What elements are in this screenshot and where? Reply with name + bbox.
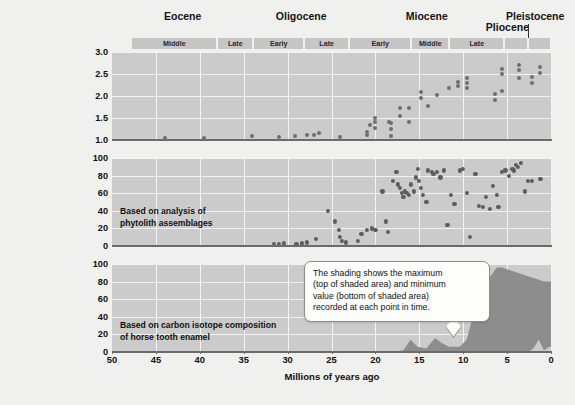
data-point [493,92,497,96]
data-point [368,123,372,127]
data-point [391,179,395,183]
data-point [480,205,484,209]
data-point [426,104,430,108]
x-tick-35: 35 [238,354,248,365]
data-point [343,240,347,244]
sub-epoch-unlabeled-7 [505,38,527,49]
data-point [401,195,405,199]
gridline-vertical [244,158,245,246]
sub-epoch-late-1: Late [218,38,252,49]
gridline-vertical [288,52,289,140]
x-tick-20: 20 [370,354,380,365]
data-point [493,98,497,102]
x-tick-mark [419,351,420,354]
y-tick-open-habitat-grasses-20: 20 [98,223,108,233]
epoch-label-pleistocene: Pleistocene [496,10,574,22]
y-tick-c4-diet-80: 80 [98,277,108,287]
data-point [389,134,393,138]
gridline-vertical [507,52,508,140]
data-point [408,182,412,186]
data-point [305,133,309,137]
data-point [365,130,369,134]
y-tick-open-habitat-grasses-100: 100 [93,153,108,163]
data-point [465,191,469,195]
data-point [449,193,453,197]
data-point [424,200,428,204]
gridline-vertical [507,158,508,246]
data-point [465,86,469,90]
pleistocene-pointer-tick [528,24,529,38]
y-tick-c4-diet-100: 100 [93,259,108,269]
y-tick-open-habitat-grasses-0: 0 [103,241,108,251]
data-point [373,116,377,120]
data-point [507,174,511,178]
gridline-vertical [288,158,289,246]
data-point [465,81,469,85]
y-tick-open-habitat-grasses-40: 40 [98,206,108,216]
data-point [365,228,369,232]
data-point [312,133,316,137]
data-point [530,179,534,183]
y-tick-hypsodonty-1.5: 1.5 [95,113,108,123]
data-point [407,193,411,197]
sub-epoch-middle-0: Middle [132,38,216,49]
data-point [359,232,363,236]
data-point [326,209,330,213]
y-tick-hypsodonty-2.5: 2.5 [95,69,108,79]
data-point [435,170,439,174]
data-point [500,89,504,93]
data-point [456,80,460,84]
data-point [407,106,411,110]
axis-line-hypsodonty [112,139,552,141]
data-point [394,170,398,174]
data-point [530,81,534,85]
data-point [530,75,534,79]
data-point [305,240,309,244]
data-point [389,121,393,125]
gridline-vertical [200,52,201,140]
y-tick-hypsodonty-1.0: 1.0 [95,135,108,145]
gridline-vertical [244,52,245,140]
y-tick-open-habitat-grasses-80: 80 [98,171,108,181]
x-tick-30: 30 [282,354,292,365]
data-point [500,67,504,71]
data-point [356,239,360,243]
sub-epoch-late-3: Late [305,38,348,49]
y-tick-hypsodonty-3.0: 3.0 [95,47,108,57]
data-point [512,168,516,172]
gridline-vertical [156,158,157,246]
data-point [293,134,297,138]
x-tick-mark [551,351,552,354]
data-point [447,86,451,90]
chart-note-open-habitat-grasses: Based on analysis of phytolith assemblag… [120,206,213,229]
x-axis-ticks: 50454035302520151050 [112,354,552,368]
x-tick-mark [112,351,113,354]
sub-epoch-middle-5: Middle [412,38,448,49]
x-tick-15: 15 [414,354,424,365]
x-tick-mark [156,351,157,354]
data-point [407,120,411,124]
x-tick-mark [507,351,508,354]
data-point [421,193,425,197]
gridline-vertical [375,158,376,246]
chart-panel-hypsodonty [112,52,551,140]
figure-root: EoceneOligoceneMiocenePliocenePleistocen… [0,0,575,405]
data-point [438,175,442,179]
data-point [538,177,542,181]
data-point [419,90,423,94]
sub-epoch-bar: MiddleLateEarlyLateEarlyMiddleLate [112,38,551,49]
data-point [386,230,390,234]
sub-epoch-early-2: Early [254,38,303,49]
data-point [389,127,393,131]
x-tick-mark [200,351,201,354]
gridline-vertical [332,158,333,246]
chart-panel-open-habitat: Based on analysis of phytolith assemblag… [112,158,551,246]
epoch-label-oligocene: Oligocene [253,10,349,22]
data-point [519,161,523,165]
y-tick-open-habitat-grasses-60: 60 [98,188,108,198]
data-point [516,165,520,169]
y-ticks-hypsodonty: 1.01.52.02.53.0 [82,52,108,140]
x-tick-mark [244,351,245,354]
y-tick-hypsodonty-2.0: 2.0 [95,91,108,101]
axis-line-open-habitat [112,245,552,247]
